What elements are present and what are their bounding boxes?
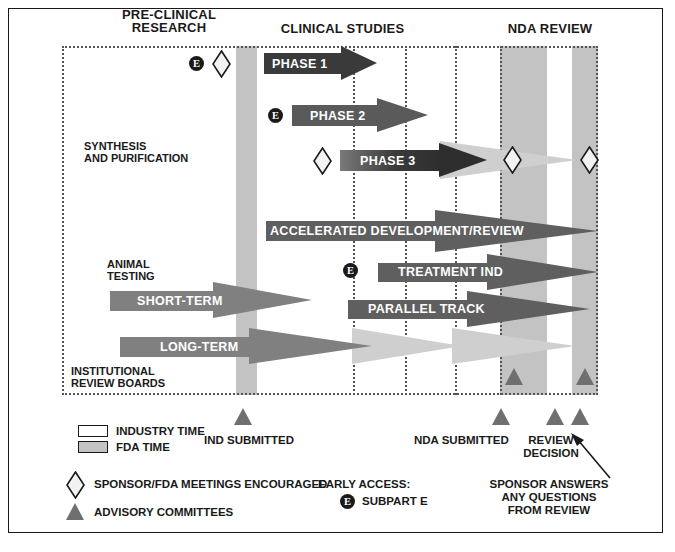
arrow-phase-2-label: PHASE 2: [310, 110, 366, 123]
arrow-phase-3-label: PHASE 3: [360, 155, 416, 168]
meeting-diamond-end-phase-2: [313, 147, 332, 175]
arrow-accelerated-label: ACCELERATED DEVELOPMENT/REVIEW: [270, 225, 524, 238]
milestone-triangle-ind-submitted: [234, 408, 252, 425]
meeting-diamond-pre-nda: [503, 146, 522, 174]
advisory-triangle-in-plot-2: [576, 368, 594, 385]
legend-swatch-industry-time: [78, 425, 108, 437]
early-access-item-label: SUBPART E: [362, 495, 428, 508]
legend-subpart-e-badge: E: [340, 494, 355, 509]
legend-label-industry-time: INDUSTRY TIME: [116, 425, 205, 438]
label-animal-testing: ANIMAL TESTING: [107, 258, 155, 282]
arrow-treatment-ind-head: [487, 254, 598, 290]
arrow-parallel-track-head: [467, 291, 590, 327]
milestone-label-nda-submitted: NDA SUBMITTED: [414, 434, 509, 447]
legend-label-fda-time: FDA TIME: [116, 441, 170, 454]
phase-header-clinical: CLINICAL STUDIES: [255, 22, 430, 35]
annotation-pointer-arrow: [570, 432, 616, 480]
phase-header-pre-clinical: PRE-CLINICAL RESEARCH: [104, 8, 234, 34]
label-institutional-review-boards: INSTITUTIONAL REVIEW BOARDS: [71, 365, 165, 389]
arrow-parallel-track-label: PARALLEL TRACK: [368, 303, 485, 316]
arrow-short-term-head: [213, 282, 312, 318]
legend-swatch-fda-time: [78, 441, 108, 453]
arrow-phase-1-head: [341, 46, 377, 80]
legend-marker-sponsor-meetings: [66, 471, 85, 499]
arrow-treatment-ind-label: TREATMENT IND: [398, 266, 503, 279]
arrow-short-term-label: SHORT-TERM: [137, 295, 223, 308]
subpart-e-badge-phase-1: E: [189, 56, 204, 71]
milestone-triangle-review-decision: [546, 408, 564, 425]
milestone-triangle-nda-submitted: [492, 408, 510, 425]
legend-label-sponsor-meetings: SPONSOR/FDA MEETINGS ENCOURAGED: [94, 478, 327, 491]
legend-marker-advisory-committees: [66, 503, 84, 520]
subpart-e-badge-phase-2: E: [268, 108, 283, 123]
label-synthesis-and-purification: SYNTHESIS AND PURIFICATION: [84, 140, 188, 164]
figure-root: PRE-CLINICAL RESEARCH CLINICAL STUDIES N…: [0, 0, 675, 552]
phase-header-nda: NDA REVIEW: [490, 22, 610, 35]
meeting-diamond-post-review: [580, 146, 599, 174]
milestone-triangle-sponsor-answers: [571, 408, 589, 425]
arrow-phase-1-label: PHASE 1: [272, 58, 328, 71]
meeting-diamond-pre-clinical: [212, 50, 231, 78]
early-access-title: EARLY ACCESS:: [318, 478, 410, 491]
arrow-long-term-continuation-head-2: [452, 328, 575, 364]
legend-label-advisory-committees: ADVISORY COMMITTEES: [94, 506, 233, 519]
arrow-phase-3-head: [439, 143, 487, 177]
arrow-phase-2-head: [377, 98, 428, 132]
milestone-label-ind-submitted: IND SUBMITTED: [204, 434, 294, 447]
advisory-triangle-in-plot-1: [505, 368, 523, 385]
arrow-long-term-head: [249, 328, 372, 364]
annotation-sponsor-answers: SPONSOR ANSWERS ANY QUESTIONS FROM REVIE…: [469, 478, 629, 517]
subpart-e-badge-treatment-ind: E: [343, 263, 358, 278]
arrow-long-term-label: LONG-TERM: [160, 341, 238, 354]
